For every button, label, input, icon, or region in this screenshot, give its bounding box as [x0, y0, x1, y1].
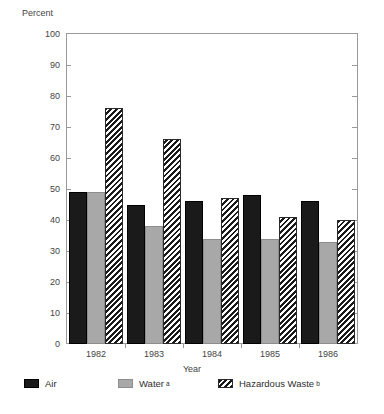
y-tick-label: 50 [22, 185, 60, 194]
bar-group [243, 34, 297, 344]
bar-water-1986 [319, 242, 337, 344]
x-tick-mark [125, 344, 126, 348]
x-tick-label: 1982 [66, 349, 126, 359]
bar-chart: Percent 0102030405060708090100 198219831… [0, 0, 384, 414]
y-tick-label: 40 [22, 216, 60, 225]
x-tick-mark [299, 344, 300, 348]
legend-swatch-icon [24, 379, 39, 388]
legend-swatch-icon [118, 379, 133, 388]
bar-hazardous-waste-1983 [163, 139, 181, 344]
bar-air-1982 [69, 192, 87, 344]
y-tick-label: 0 [22, 340, 60, 349]
bar-hazardous-waste-1984 [221, 198, 239, 344]
bar-group [301, 34, 355, 344]
bar-air-1985 [243, 195, 261, 344]
bar-group [127, 34, 181, 344]
bar-air-1986 [301, 201, 319, 344]
legend-label: Hazardous Waste [239, 378, 314, 389]
legend-label: Air [45, 378, 57, 389]
x-axis-title: Year [0, 364, 384, 374]
x-tick-label: 1986 [298, 349, 358, 359]
y-tick-label: 60 [22, 154, 60, 163]
bar-hazardous-waste-1982 [105, 108, 123, 344]
legend-footnote-marker: a [166, 380, 170, 387]
bar-hazardous-waste-1985 [279, 217, 297, 344]
y-tick-label: 30 [22, 247, 60, 256]
bars-container [67, 34, 357, 344]
bar-air-1983 [127, 205, 145, 345]
y-tick-label: 70 [22, 123, 60, 132]
y-tick-label: 100 [22, 30, 60, 39]
legend-swatch-icon [218, 379, 233, 388]
x-tick-mark [183, 344, 184, 348]
bar-water-1985 [261, 239, 279, 344]
bar-water-1982 [87, 192, 105, 344]
bar-air-1984 [185, 201, 203, 344]
chart-legend: AirWateraHazardous Wasteb [24, 376, 364, 390]
bar-hazardous-waste-1986 [337, 220, 355, 344]
legend-label: Water [139, 378, 164, 389]
bar-group [185, 34, 239, 344]
bar-water-1984 [203, 239, 221, 344]
x-tick-label: 1984 [182, 349, 242, 359]
bar-group [69, 34, 123, 344]
x-tick-label: 1985 [240, 349, 300, 359]
legend-item-water[interactable]: Watera [118, 376, 170, 390]
y-tick-label: 10 [22, 309, 60, 318]
legend-item-air[interactable]: Air [24, 376, 57, 390]
y-tick-label: 90 [22, 61, 60, 70]
legend-footnote-marker: b [316, 380, 320, 387]
x-tick-mark [241, 344, 242, 348]
bar-water-1983 [145, 226, 163, 344]
y-tick-label: 20 [22, 278, 60, 287]
y-tick-label: 80 [22, 92, 60, 101]
legend-item-hazardous-waste[interactable]: Hazardous Wasteb [218, 376, 320, 390]
x-tick-label: 1983 [124, 349, 184, 359]
